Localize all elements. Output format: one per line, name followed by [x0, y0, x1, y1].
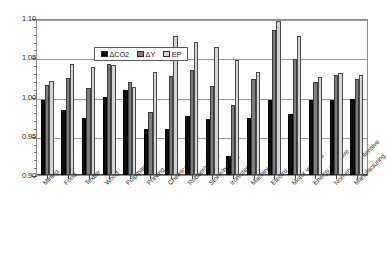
bar-groups	[37, 20, 367, 175]
bar	[214, 47, 218, 175]
bar-group	[305, 20, 326, 175]
bar-group	[243, 20, 264, 175]
x-axis-labels: MiningFoodTextileWoodPulp/paperPrintingC…	[36, 177, 368, 255]
bar	[132, 87, 136, 175]
legend-label-dy: ΔY	[146, 51, 156, 58]
bar	[91, 67, 95, 175]
bar	[111, 65, 115, 175]
bar	[153, 72, 157, 175]
legend-item-co2: ΔCO2	[101, 51, 129, 58]
bar	[359, 75, 363, 175]
bar-group	[181, 20, 202, 175]
bar-group	[78, 20, 99, 175]
bar-group	[37, 20, 58, 175]
legend-label-ep: EP	[172, 51, 182, 58]
bar	[256, 72, 260, 175]
bar-group	[202, 20, 223, 175]
bar-group	[264, 20, 285, 175]
legend-swatch-ep-icon	[163, 51, 170, 58]
bar	[235, 60, 239, 175]
legend-swatch-co2-icon	[101, 51, 108, 58]
bar-group	[120, 20, 141, 175]
chart-legend: ΔCO2 ΔY EP	[94, 47, 188, 61]
bar-group	[99, 20, 120, 175]
bar	[318, 77, 322, 175]
legend-swatch-dy-icon	[137, 51, 144, 58]
bar-group	[58, 20, 79, 175]
bar	[297, 36, 301, 175]
bar-group	[223, 20, 244, 175]
plot-area: ΔCO2 ΔY EP	[36, 19, 368, 176]
bar	[70, 64, 74, 175]
bar	[276, 21, 280, 175]
bar	[194, 42, 198, 175]
bar	[49, 81, 53, 175]
legend-item-dy: ΔY	[137, 51, 155, 58]
bar	[338, 73, 342, 175]
legend-label-co2: ΔCO2	[110, 51, 130, 58]
bar-group	[285, 20, 306, 175]
legend-item-ep: EP	[163, 51, 181, 58]
bar-group	[161, 20, 182, 175]
bar-group	[140, 20, 161, 175]
